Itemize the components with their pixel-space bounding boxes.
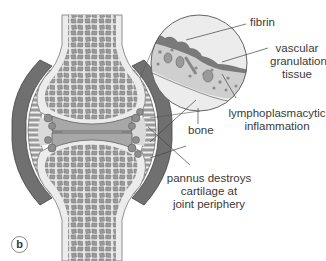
label-bone: bone: [188, 124, 214, 137]
label-lymphoplasmacytic-inflammation: lymphoplasmacytic inflammation: [228, 107, 326, 133]
panel-letter: b: [11, 236, 28, 253]
label-fibrin: fibrin: [250, 16, 275, 29]
label-pannus: pannus destroys cartilage at joint perip…: [166, 172, 252, 211]
label-vascular-granulation-tissue: vascular granulation tissue: [270, 42, 324, 81]
joint-diagram: fibrin vascular granulation tissue lymph…: [0, 0, 326, 261]
